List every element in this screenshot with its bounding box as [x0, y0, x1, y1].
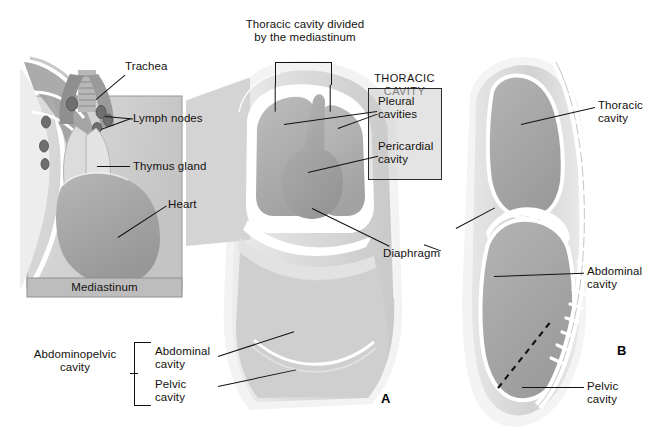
label-pleural-cavities: Pleural cavities [378, 95, 440, 120]
panel-letter-b: B [617, 343, 626, 358]
label-trachea: Trachea [125, 60, 167, 73]
panel-letter-a: A [381, 391, 390, 406]
label-pericardial-cavity: Pericardial cavity [378, 140, 440, 165]
bracket-abdominopelvic-stem [130, 373, 138, 374]
label-thymus-gland: Thymus gland [133, 160, 206, 173]
label-mediastinum-caption: Mediastinum [27, 281, 182, 294]
label-lymph-nodes: Lymph nodes [133, 112, 203, 125]
label-heart: Heart [168, 198, 197, 211]
label-abdominal-cavity-a: Abdominal cavity [155, 345, 217, 370]
label-diaphragm: Diaphragm [383, 247, 440, 260]
figure-canvas: Trachea Lymph nodes Thymus gland Heart M… [0, 0, 659, 437]
label-thoracic-divided: Thoracic cavity divided by the mediastin… [225, 18, 385, 43]
label-thoracic-cavity-b: Thoracic cavity [598, 99, 656, 124]
label-abdominopelvic-cavity: Abdominopelvic cavity [20, 348, 130, 373]
leader-thymus-gland [97, 166, 130, 167]
label-abdominal-cavity-b: Abdominal cavity [587, 265, 653, 290]
bracket-tick-right [329, 85, 330, 112]
bracket-tick-left [274, 85, 275, 112]
leader-pelvic-cavity-b [522, 387, 584, 388]
label-pelvic-cavity-a: Pelvic cavity [155, 378, 217, 403]
bracket-thoracic-divided [275, 62, 332, 85]
label-pelvic-cavity-b: Pelvic cavity [587, 380, 645, 405]
